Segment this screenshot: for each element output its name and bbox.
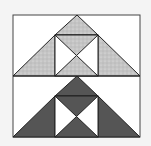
quilt-block-diagram	[0, 0, 151, 146]
